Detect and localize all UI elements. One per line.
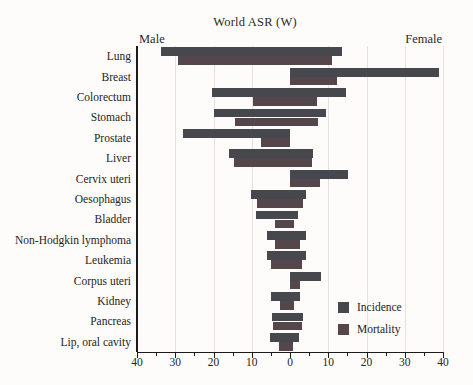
category-label-prostate: Prostate [0, 131, 131, 145]
minor-tick [233, 353, 234, 356]
minor-tick [271, 353, 272, 356]
tick-label-male-10: 10 [237, 356, 267, 368]
mortality-bar-cervix-uteri [290, 179, 320, 188]
category-label-stomach: Stomach [0, 110, 131, 124]
incidence-bar-lip-oral-cavity [270, 333, 299, 342]
zero-baseline [136, 46, 138, 352]
category-label-breast: Breast [0, 70, 131, 84]
incidence-bar-kidney [271, 292, 300, 301]
category-label-oesophagus: Oesophagus [0, 192, 131, 206]
minor-tick [309, 353, 310, 356]
chart-title: World ASR (W) [155, 15, 355, 30]
category-labels-column: LungBreastColorectumStomachProstateLiver… [0, 46, 131, 352]
incidence-bar-cervix-uteri [290, 170, 348, 179]
incidence-bar-stomach [214, 109, 326, 118]
incidence-bar-pancreas [272, 313, 303, 322]
incidence-bar-leukemia [267, 251, 306, 260]
category-label-liver: Liver [0, 151, 131, 165]
tick-label-male-30: 30 [160, 356, 190, 368]
category-label-corpus-uteri: Corpus uteri [0, 274, 131, 288]
mortality-bar-liver [234, 158, 312, 167]
category-label-kidney: Kidney [0, 294, 131, 308]
category-label-leukemia: Leukemia [0, 253, 131, 267]
mortality-bar-kidney [280, 301, 294, 310]
gridline [175, 46, 176, 352]
incidence-bar-bladder [256, 211, 299, 220]
mortality-bar-prostate [261, 138, 290, 147]
minor-tick [386, 353, 387, 356]
tick-label-female-30: 30 [390, 356, 420, 368]
mortality-bar-oesophagus [257, 199, 303, 208]
category-label-bladder: Bladder [0, 212, 131, 226]
legend-item-incidence: Incidence [338, 300, 402, 314]
mortality-bar-breast [290, 77, 337, 86]
mortality-bar-pancreas [273, 322, 302, 331]
legend: Incidence Mortality [338, 300, 402, 344]
incidence-swatch-icon [338, 302, 349, 313]
tick-label-0: 0 [275, 356, 305, 368]
incidence-bar-oesophagus [251, 190, 306, 199]
incidence-bar-corpus-uteri [290, 272, 321, 281]
female-side-label: Female [405, 32, 442, 47]
mortality-bar-corpus-uteri [290, 281, 300, 290]
tick-label-female-20: 20 [352, 356, 382, 368]
incidence-bar-lung [161, 47, 342, 56]
tick-label-female-40: 40 [428, 356, 458, 368]
incidence-bar-prostate [183, 129, 290, 138]
mortality-bar-stomach [235, 118, 318, 127]
male-side-label: Male [139, 32, 165, 47]
category-label-lip-oral-cavity: Lip, oral cavity [0, 335, 131, 349]
mortality-bar-bladder [275, 220, 294, 229]
mortality-bar-lung [178, 56, 332, 65]
legend-item-mortality: Mortality [338, 322, 402, 336]
category-label-lung: Lung [0, 49, 131, 63]
mortality-bar-leukemia [271, 260, 302, 269]
category-label-pancreas: Pancreas [0, 314, 131, 328]
gridline [405, 46, 406, 352]
legend-label-incidence: Incidence [357, 301, 402, 313]
mortality-bar-lip-oral-cavity [279, 342, 293, 351]
incidence-bar-breast [290, 68, 439, 77]
category-label-colorectum: Colorectum [0, 90, 131, 104]
mortality-bar-non-hodgkin-lymphoma [275, 240, 300, 249]
tick-label-female-10: 10 [313, 356, 343, 368]
tick-label-male-40: 40 [122, 356, 152, 368]
minor-tick [194, 353, 195, 356]
mortality-swatch-icon [338, 324, 349, 335]
tick-label-male-20: 20 [199, 356, 229, 368]
legend-label-mortality: Mortality [357, 323, 400, 335]
cancer-asr-pyramid-chart: World ASR (W) Male Female LungBreastColo… [0, 0, 473, 385]
category-label-non-hodgkin-lymphoma: Non-Hodgkin lymphoma [0, 233, 131, 247]
mortality-bar-colorectum [253, 97, 316, 106]
category-label-cervix-uteri: Cervix uteri [0, 172, 131, 186]
minor-tick [347, 353, 348, 356]
incidence-bar-liver [229, 149, 313, 158]
incidence-bar-colorectum [212, 88, 345, 97]
minor-tick [424, 353, 425, 356]
gridline [443, 46, 444, 352]
minor-tick [156, 353, 157, 356]
incidence-bar-non-hodgkin-lymphoma [267, 231, 306, 240]
